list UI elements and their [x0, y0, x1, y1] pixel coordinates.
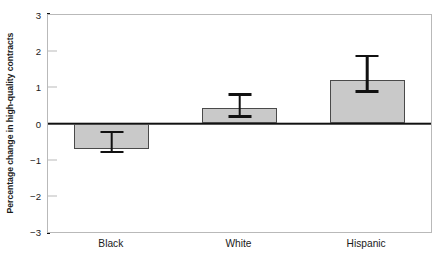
x-tick-label-white: White	[225, 238, 251, 249]
error-cap-lower	[100, 151, 123, 154]
error-bar-white	[228, 93, 252, 117]
y-tick-label: 2	[36, 46, 41, 57]
y-tick-mark	[48, 51, 57, 52]
y-tick-label: 0	[36, 118, 41, 129]
y-tick-label: −3	[30, 227, 41, 238]
y-axis-title-text: Percentage change in high-quality contra…	[5, 33, 15, 214]
x-tick-label-hispanic: Hispanic	[347, 238, 386, 249]
y-tick-mark	[48, 195, 57, 196]
y-tick-label: 1	[36, 82, 41, 93]
error-stem	[366, 55, 369, 93]
y-tick-mark	[48, 159, 57, 160]
x-tick-label-black: Black	[98, 238, 123, 249]
y-tick-label: 3	[36, 10, 41, 21]
y-tick-label: −1	[30, 154, 41, 165]
error-bar-black	[100, 131, 124, 153]
error-cap-lower	[356, 90, 379, 93]
y-tick-mark	[48, 87, 57, 88]
y-axis-title: Percentage change in high-quality contra…	[0, 0, 20, 246]
error-bar-hispanic	[355, 55, 379, 93]
error-stem	[238, 93, 241, 117]
error-cap-lower	[228, 115, 251, 118]
bar-chart-figure: Percentage change in high-quality contra…	[0, 0, 441, 259]
y-tick-label: −2	[30, 190, 41, 201]
plot-area: 3210−1−2−3	[47, 14, 432, 233]
